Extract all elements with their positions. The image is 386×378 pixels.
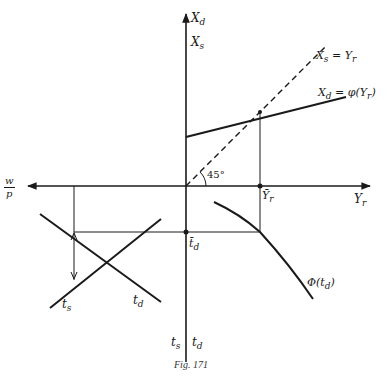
td-curve: [40, 214, 161, 302]
phi-close: ): [331, 276, 335, 289]
xd-sub: d: [200, 17, 206, 27]
xd-main: X: [191, 11, 200, 25]
tda-sub: d: [197, 341, 203, 351]
yr-sub: r: [362, 198, 366, 208]
td-curve-label: td: [133, 294, 144, 309]
yrb-sub: r: [269, 194, 273, 204]
xd-function-label: Xd = φ(Yr): [318, 87, 376, 101]
l45-c: = Y: [328, 49, 351, 62]
figure-caption: Fig. 171: [174, 359, 208, 370]
l45-d: r: [352, 54, 356, 64]
xd-axis-label: Xd: [191, 12, 205, 27]
phi-td-label: Φ(td): [307, 277, 335, 291]
p-denominator: p: [4, 188, 15, 199]
ts-axis-label: ts: [171, 336, 180, 351]
phi-td-curve: [214, 202, 313, 299]
yr-bar-point: [258, 184, 263, 189]
diagram-canvas: Xd Xs Xs = Yr Xd = φ(Yr) 45° wp Yr Ȳr t̄…: [0, 0, 386, 378]
l45-a: X: [316, 49, 324, 62]
xdf-a: X: [318, 86, 326, 99]
tsc-sub: s: [67, 303, 72, 313]
tsa-sub: s: [176, 341, 181, 351]
xdf-e: ): [371, 86, 375, 99]
td-axis-label: td: [192, 336, 203, 351]
line-45-label: Xs = Yr: [316, 50, 356, 64]
w-numerator: w: [4, 176, 15, 188]
yr-axis-label: Yr: [354, 193, 366, 208]
td-bar-point: [184, 230, 189, 235]
xd-function-line: [186, 97, 346, 137]
tdb-sub: d: [193, 242, 199, 252]
xdf-c: = φ(Y: [332, 86, 367, 99]
phi-main: Φ(t: [307, 276, 325, 289]
wp-axis-label: wp: [4, 176, 15, 199]
ts-curve-label: ts: [62, 298, 71, 313]
line-45-degree: [186, 46, 326, 186]
yr-main: Y: [354, 192, 362, 206]
xs-main: X: [191, 35, 200, 49]
angle-arc: [200, 172, 206, 186]
angle-label: 45°: [207, 170, 225, 180]
yr-bar-label: Ȳr: [262, 190, 274, 204]
tdc-sub: d: [138, 299, 144, 309]
xs-axis-label: Xs: [191, 36, 204, 51]
td-bar-label: t̄d: [189, 238, 199, 252]
xs-sub: s: [200, 41, 205, 51]
